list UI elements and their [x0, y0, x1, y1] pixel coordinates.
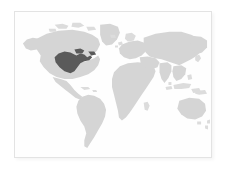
landmass-tasmania	[197, 121, 201, 124]
map-card[interactable]: World landmasses Highlighted region	[14, 11, 212, 158]
landmass-europe	[119, 41, 148, 60]
landmass-southeast-asia	[172, 65, 186, 81]
landmass-iceland	[110, 35, 116, 38]
landmass-philippines	[187, 74, 192, 80]
landmass-new-zealand	[205, 120, 210, 130]
region-africa[interactable]	[112, 62, 156, 120]
landmass-sri-lanka	[168, 82, 171, 85]
world-map-svg[interactable]	[15, 12, 211, 157]
landmass-india	[160, 62, 172, 83]
region-asia[interactable]	[140, 32, 207, 93]
region-australia[interactable]	[177, 90, 210, 129]
map-viewport[interactable]: World landmasses Highlighted region	[15, 12, 211, 157]
landmass-africa	[112, 62, 156, 120]
landmass-madagascar	[144, 102, 150, 111]
landmass-australia	[177, 98, 206, 120]
landmass-caribbean	[80, 87, 97, 92]
region-south-america[interactable]	[76, 95, 106, 148]
landmass-greenland	[100, 24, 120, 46]
landmass-mexico-central-america	[53, 77, 83, 100]
landmass-scandinavia	[125, 33, 136, 42]
landmass-south-america	[76, 95, 106, 148]
